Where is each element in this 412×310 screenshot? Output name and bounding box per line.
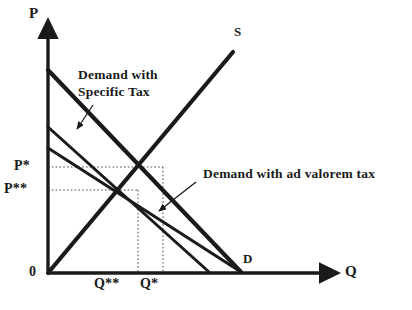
- ad-valorem-annotation: Demand with ad valorem tax: [203, 166, 375, 181]
- guide-lines: [48, 167, 163, 273]
- specific-tax-annotation-line1: Demand with: [78, 67, 158, 84]
- quantity-star-tick-label: Q*: [140, 276, 158, 292]
- y-axis-label: P: [29, 5, 38, 22]
- quantity-double-star-tick-label: Q**: [94, 276, 120, 292]
- origin-label: 0: [29, 264, 36, 280]
- supply-demand-figure: P Q 0 S D P* P** Q** Q* Demand with Spec…: [0, 0, 412, 310]
- specific-tax-annotation-line2: Specific Tax: [78, 84, 158, 101]
- demand-curve-label: D: [243, 252, 253, 267]
- specific-tax-annotation: Demand with Specific Tax: [78, 67, 158, 101]
- supply-curve-label: S: [234, 25, 241, 40]
- x-axis-label: Q: [345, 263, 357, 280]
- price-star-tick-label: P*: [14, 158, 30, 174]
- price-double-star-tick-label: P**: [4, 181, 27, 197]
